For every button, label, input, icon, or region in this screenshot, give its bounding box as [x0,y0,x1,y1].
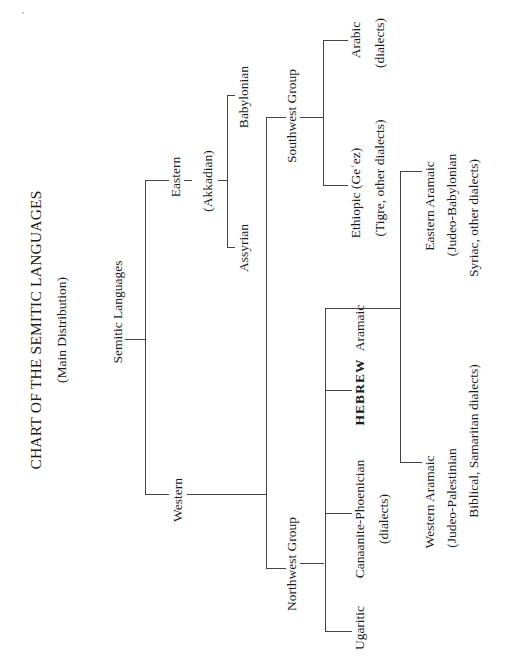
connector-northwest-left [266,568,286,569]
node-western-aramaic-line3: Biblical, Samaritan dialects) [467,364,481,517]
node-northwest-group: Northwest Group [285,517,299,611]
connector-eastern [145,180,169,181]
connector-southwest-right [300,117,324,118]
node-babylonian: Babylonian [237,66,251,128]
connector-western-aramaic [400,462,422,463]
connector-hebrew [325,390,352,391]
connector-southwest-vertical [323,40,324,185]
node-eastern-aramaic-line2: (Judeo-Babylonian [445,154,459,257]
node-eastern-aramaic-line3: Syriac, other dialects) [467,159,481,277]
connector-ethiopic [323,185,348,186]
connector-canaanite [325,513,352,514]
node-southwest-group: Southwest Group [285,69,299,163]
connector-root-vertical [145,180,146,494]
node-ethiopic: Ethiopic (Geʿez) [349,148,363,238]
node-eastern: Eastern [169,157,183,197]
node-western-aramaic-line2: (Judeo-Palestinian [445,448,459,548]
connector-ugaritic [325,631,352,632]
chart-title: CHART OF THE SEMITIC LANGUAGES [28,190,44,469]
connector-western-right [187,494,267,495]
node-semitic-languages: Semitic Languages [111,260,125,363]
connector-eastern-mid [184,180,192,181]
connector-babylonian [227,95,235,96]
chart-subtitle: (Main Distribution) [55,277,69,383]
connector-southwest-left [266,117,286,118]
scan-speck [22,12,24,14]
node-western: Western [171,478,185,522]
connector-eastern-aramaic [400,171,422,172]
node-western-aramaic: Western Aramaic [423,456,437,549]
connector-western-vertical [266,117,267,568]
connector-aramaic-vertical [400,171,401,463]
node-assyrian: Assyrian [237,224,251,272]
node-ugaritic: Ugaritic [353,606,367,650]
connector-northwest-right [300,563,324,564]
connector-northwest-vertical [325,308,326,631]
node-eastern-aramaic: Eastern Aramaic [423,161,437,251]
node-aramaic: Aramaic [353,305,367,351]
node-hebrew: HEBREW [353,359,367,426]
node-ethiopic-note: (Tigre, other dialects) [373,120,387,237]
node-arabic: Arabic [349,22,363,59]
connector-arabic [323,40,348,41]
connector-western-left [145,494,169,495]
node-canaanite-phoenician: Canaanite-Phoenician [353,460,367,578]
connector-akkadian-vertical [227,95,228,247]
connector-root [125,339,146,340]
connector-assyrian [227,247,235,248]
node-canaanite-note: (dialects) [377,494,391,544]
node-akkadian: (Akkadian) [201,150,215,211]
semitic-languages-chart: CHART OF THE SEMITIC LANGUAGES (Main Dis… [0,0,506,667]
node-arabic-note: (dialects) [373,18,387,68]
